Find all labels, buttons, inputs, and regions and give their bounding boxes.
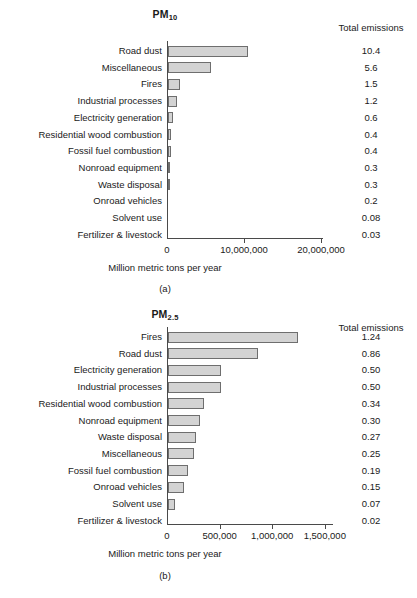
- x-axis-tick-mark: [325, 525, 326, 529]
- bar-row: Waste disposal0.27: [0, 429, 417, 446]
- panel-caption-a: (a): [0, 283, 330, 294]
- bar: [168, 415, 200, 426]
- total-emissions-value: 0.86: [327, 348, 415, 359]
- total-emissions-value: 0.34: [327, 398, 415, 409]
- bar: [168, 365, 221, 376]
- total-emissions-value: 0.19: [327, 465, 415, 476]
- bar: [168, 499, 175, 510]
- bar-row-label: Onroad vehicles: [93, 195, 162, 206]
- x-axis-tick-mark: [321, 239, 322, 243]
- x-axis-tick-label: 500,000: [202, 530, 236, 541]
- bar-row: Residential wood combustion0.4: [0, 127, 417, 144]
- bar-row-label: Waste disposal: [98, 431, 162, 442]
- bar: [168, 162, 170, 173]
- bar-row: Miscellaneous5.6: [0, 60, 417, 77]
- bar-row-label: Nonroad equipment: [79, 162, 162, 173]
- total-emissions-value: 0.03: [327, 229, 415, 240]
- total-emissions-value: 0.27: [327, 431, 415, 442]
- x-axis-tick-label: 1,000,000: [251, 530, 293, 541]
- total-emissions-value: 0.4: [327, 145, 415, 156]
- chart-title-subscript: 2.5: [168, 313, 179, 322]
- chart-title-pm10: PM10: [0, 8, 330, 20]
- bar-row-label: Industrial processes: [78, 95, 162, 106]
- bar-row: Fertilizer & livestock0.03: [0, 227, 417, 244]
- chart-title-main: PM: [151, 308, 167, 320]
- bar-row-label: Residential wood combustion: [38, 398, 162, 409]
- x-axis-tick-label: 0: [164, 530, 169, 541]
- total-emissions-value: 0.07: [327, 498, 415, 509]
- bar-row: Electricity generation0.6: [0, 110, 417, 127]
- bar-row: Industrial processes1.2: [0, 93, 417, 110]
- bar-row: Solvent use0.08: [0, 210, 417, 227]
- x-axis-tick-label: 1,500,000: [304, 530, 346, 541]
- bar: [168, 465, 188, 476]
- bar-row: Road dust0.86: [0, 346, 417, 363]
- bar-row-label: Fertilizer & livestock: [78, 229, 162, 240]
- bar-row: Fires1.24: [0, 329, 417, 346]
- bar: [168, 382, 221, 393]
- total-emissions-value: 0.50: [327, 364, 415, 375]
- bar-row: Fossil fuel combustion0.19: [0, 463, 417, 480]
- bar-row: Fertilizer & livestock0.02: [0, 513, 417, 530]
- total-emissions-value: 0.02: [327, 515, 415, 526]
- x-axis-caption-pm25: Million metric tons per year: [0, 548, 330, 559]
- bar: [168, 79, 180, 90]
- chart-panel-pm10: PM10 Total emissions Road dust10.4Miscel…: [0, 0, 417, 300]
- bar-row-label: Fires: [141, 78, 162, 89]
- total-emissions-value: 10.4: [327, 45, 415, 56]
- bar-row-label: Fertilizer & livestock: [78, 515, 162, 526]
- bar: [168, 332, 298, 343]
- bar-row-label: Miscellaneous: [102, 62, 162, 73]
- bar: [168, 46, 248, 57]
- bar-row: Electricity generation0.50: [0, 362, 417, 379]
- bar-row-label: Miscellaneous: [102, 448, 162, 459]
- x-axis-tick-mark: [220, 525, 221, 529]
- bar: [168, 112, 173, 123]
- chart-title-main: PM: [153, 8, 169, 20]
- bar-row-label: Electricity generation: [74, 112, 162, 123]
- total-emissions-value: 0.6: [327, 112, 415, 123]
- bar-row: Onroad vehicles0.2: [0, 193, 417, 210]
- total-emissions-value: 0.30: [327, 415, 415, 426]
- bar: [168, 448, 194, 459]
- total-emissions-value: 0.25: [327, 448, 415, 459]
- total-emissions-value: 5.6: [327, 62, 415, 73]
- bar-row-label: Road dust: [119, 348, 162, 359]
- total-emissions-value: 0.3: [327, 179, 415, 190]
- total-emissions-value: 1.24: [327, 331, 415, 342]
- x-axis-tick-label: 20,000,000: [297, 244, 345, 255]
- bar-row-label: Fossil fuel combustion: [68, 145, 162, 156]
- bar-row-label: Electricity generation: [74, 364, 162, 375]
- bar: [168, 432, 196, 443]
- bar: [168, 96, 177, 107]
- bar-row: Nonroad equipment0.3: [0, 160, 417, 177]
- total-emissions-value: 0.08: [327, 212, 415, 223]
- total-emissions-value: 0.15: [327, 481, 415, 492]
- bar-row-label: Solvent use: [112, 212, 162, 223]
- bar-row-label: Fires: [141, 331, 162, 342]
- bar-row-label: Industrial processes: [78, 381, 162, 392]
- x-axis-tick-label: 10,000,000: [220, 244, 268, 255]
- bar-row-label: Waste disposal: [98, 179, 162, 190]
- bar: [168, 146, 171, 157]
- bar-row-label: Solvent use: [112, 498, 162, 509]
- bar: [168, 129, 171, 140]
- figure-pm-emissions-by-source: { "figure": { "panel_a_caption": "(a)", …: [0, 0, 417, 598]
- x-axis-caption-pm10: Million metric tons per year: [0, 262, 330, 273]
- bar-row: Onroad vehicles0.15: [0, 479, 417, 496]
- x-axis-tick-label: 0: [164, 244, 169, 255]
- chart-title-subscript: 10: [169, 13, 178, 22]
- bar-row: Fires1.5: [0, 76, 417, 93]
- bar-row: Nonroad equipment0.30: [0, 413, 417, 430]
- total-emissions-value: 0.3: [327, 162, 415, 173]
- bar-row-label: Fossil fuel combustion: [68, 465, 162, 476]
- bar-row: Solvent use0.07: [0, 496, 417, 513]
- bar: [168, 482, 184, 493]
- total-emissions-value: 1.5: [327, 78, 415, 89]
- chart-panel-pm25: PM2.5 Total emissions Fires1.24Road dust…: [0, 300, 417, 598]
- bar-row: Residential wood combustion0.34: [0, 396, 417, 413]
- bar-row: Waste disposal0.3: [0, 177, 417, 194]
- bar: [168, 348, 258, 359]
- bar-row: Fossil fuel combustion0.4: [0, 143, 417, 160]
- bar: [168, 179, 170, 190]
